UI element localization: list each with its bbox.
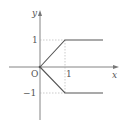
origin-point (39, 66, 42, 69)
y-axis-arrow-icon (38, 10, 42, 16)
upper-branch (40, 40, 103, 67)
origin-label: O (31, 69, 38, 79)
x-axis-arrow-icon (113, 65, 119, 69)
y-tick-one: 1 (32, 35, 38, 45)
y-axis-label: y (31, 8, 38, 18)
guide-lines (40, 40, 65, 93)
y-tick-minus-one: −1 (23, 88, 36, 98)
function-graph: y x O 1 1 −1 (0, 0, 126, 129)
x-axis (9, 65, 119, 69)
x-tick-one: 1 (66, 69, 72, 79)
x-axis-label: x (112, 70, 117, 80)
